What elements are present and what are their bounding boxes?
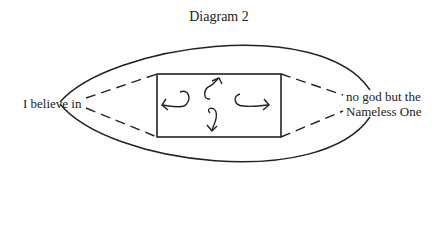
right-label-line2: Nameless One	[346, 104, 421, 119]
arrow-right-icon	[235, 94, 268, 106]
right-label-line1: no god but the	[346, 89, 421, 104]
arrow-up-icon	[205, 79, 218, 99]
right-label: no god but the Nameless One	[346, 89, 421, 119]
connector-left-bottom	[86, 108, 157, 137]
connector-left-top	[86, 74, 157, 98]
connector-right-top	[281, 74, 343, 95]
outer-lens-bottom	[60, 104, 370, 162]
connector-right-bottom	[281, 111, 343, 137]
left-label: I believe in	[23, 96, 81, 111]
